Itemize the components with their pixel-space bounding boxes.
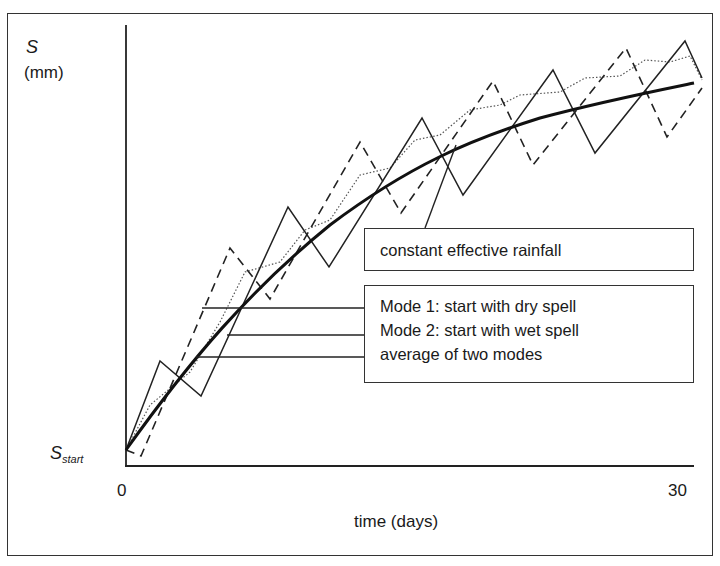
y-axis-symbol: S xyxy=(26,37,38,58)
y-axis-unit: (mm) xyxy=(24,63,64,83)
legend-mode2-label: Mode 2: start with wet spell xyxy=(380,319,693,343)
x-tick-30: 30 xyxy=(668,481,687,501)
legend-box-constant: constant effective rainfall xyxy=(364,228,694,271)
legend-constant-label: constant effective rainfall xyxy=(380,241,561,259)
x-tick-0: 0 xyxy=(117,481,126,501)
s-start-main: S xyxy=(50,443,62,463)
chart-plot xyxy=(0,0,720,566)
x-axis-label: time (days) xyxy=(354,512,438,532)
legend-box-modes: Mode 1: start with dry spell Mode 2: sta… xyxy=(364,285,694,383)
legend-mode1-label: Mode 1: start with dry spell xyxy=(380,295,693,319)
s-start-subscript: start xyxy=(62,453,83,465)
s-start-label: Sstart xyxy=(50,443,83,465)
legend-average-label: average of two modes xyxy=(380,343,693,367)
